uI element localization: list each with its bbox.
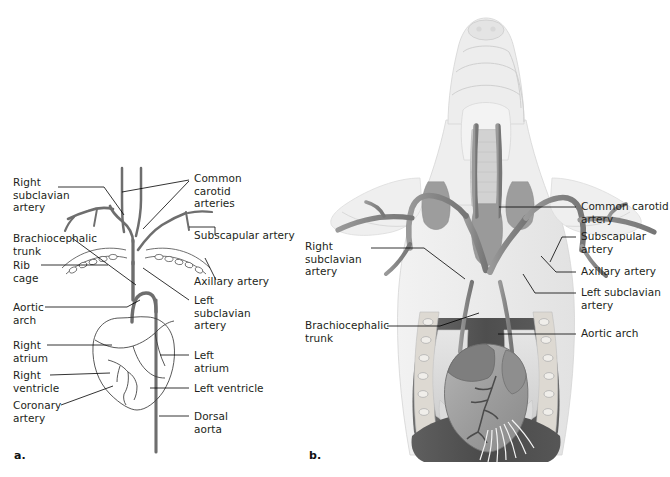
label-left-ventricle-a: Left ventricle xyxy=(194,382,264,395)
av-groove xyxy=(95,321,174,348)
coronary-branch-4 xyxy=(117,366,120,382)
coronary-main xyxy=(108,360,128,372)
left-common-carotid-vessel xyxy=(136,168,141,236)
leader-coronary-artery xyxy=(61,386,113,405)
label-left-subclavian-artery-b: Left subclavian artery xyxy=(581,286,661,311)
label-right-subclavian-artery-b: Right subclavian artery xyxy=(305,240,362,278)
left-subscapular-vessel xyxy=(186,212,189,230)
left-axillary-vessel xyxy=(188,211,212,213)
common-carotid-left-vessel xyxy=(475,126,477,216)
common-carotid-right-vessel xyxy=(498,126,500,216)
coronary-branch-3 xyxy=(134,386,137,400)
panel-b-anatomical: Right subclavian artery Brachiocephalic … xyxy=(300,0,670,477)
label-common-carotid-artery-b: Common carotid artery xyxy=(581,200,669,225)
gland-left xyxy=(422,182,450,230)
nostril-left xyxy=(476,26,481,31)
figure-arterial-system: Right subclavian artery Brachiocephalic … xyxy=(0,0,670,477)
right-common-carotid-vessel xyxy=(122,168,124,232)
label-subscapular-artery-a: Subscapular artery xyxy=(194,229,295,242)
label-brachiocephalic-trunk-a: Brachiocephalic trunk xyxy=(13,232,97,257)
label-right-subclavian-artery-a: Right subclavian artery xyxy=(13,176,70,214)
label-left-subclavian-artery-a: Left subclavian artery xyxy=(194,294,251,332)
label-subscapular-artery-b: Subscapular artery xyxy=(581,230,646,255)
coronary-branch-5 xyxy=(124,394,126,405)
label-axillary-artery-b: Axillary artery xyxy=(581,265,656,278)
right-subscapular-vessel xyxy=(94,209,97,226)
label-aortic-arch-a: Aortic arch xyxy=(13,301,44,326)
label-left-atrium-a: Left atrium xyxy=(194,349,229,374)
left-subclavian-vessel xyxy=(138,213,186,250)
coronary-artery-branches xyxy=(108,360,137,405)
label-common-carotid-arteries-a: Common carotid arteries xyxy=(194,172,242,210)
coronary-branch-1 xyxy=(124,372,128,394)
arterial-tree-schematic xyxy=(65,168,212,452)
panel-marker-b: b. xyxy=(309,449,321,462)
interventricular-groove xyxy=(133,346,165,378)
label-rib-cage-a: Rib cage xyxy=(13,259,39,284)
label-aortic-arch-b: Aortic arch xyxy=(581,327,638,340)
label-right-atrium-a: Right atrium xyxy=(13,339,48,364)
snout xyxy=(468,20,504,40)
label-right-ventricle-a: Right ventricle xyxy=(13,369,59,394)
label-dorsal-aorta-a: Dorsal aorta xyxy=(194,410,228,435)
coronary-branch-2 xyxy=(128,372,137,386)
label-brachiocephalic-trunk-b: Brachiocephalic trunk xyxy=(305,319,389,344)
leader-aortic-arch xyxy=(45,300,140,307)
panel-marker-a: a. xyxy=(14,449,26,462)
panel-a-schematic: Right subclavian artery Brachiocephalic … xyxy=(0,0,300,477)
leader-common-carotid-1 xyxy=(122,180,189,192)
label-coronary-artery-a: Coronary artery xyxy=(13,399,61,424)
heart-schematic xyxy=(93,317,175,410)
label-axillary-artery-a: Axillary artery xyxy=(194,275,269,288)
nostril-right xyxy=(490,26,495,31)
heart-outline xyxy=(93,317,175,410)
